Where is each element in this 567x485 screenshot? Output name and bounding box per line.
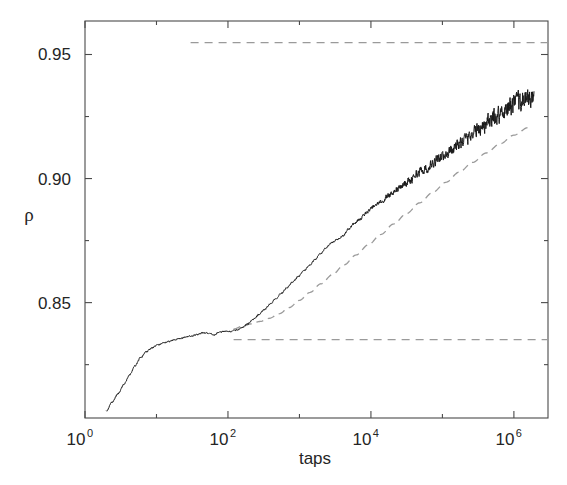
x-tick-label-3: 10 [495,430,514,449]
plot-frame [85,21,548,418]
x-tick-exponent-0: 0 [87,427,93,439]
axis-ticks [85,21,548,418]
asymptote-lines [191,43,548,340]
y-tick-label-0: 0.95 [38,45,71,64]
figure-container: 100102104106 0.950.900.85 taps ρ [0,0,567,485]
y-axis-label: ρ [24,204,33,225]
logarithmic-fit-curve [234,127,529,328]
y-tick-label-2: 0.85 [38,294,71,313]
y-tick-label-1: 0.90 [38,170,71,189]
x-tick-exponent-1: 2 [230,427,236,439]
x-tick-label-0: 10 [67,430,86,449]
x-axis-tick-labels: 100102104106 [67,427,522,449]
x-tick-exponent-2: 4 [373,427,379,439]
chart-canvas: 100102104106 0.950.900.85 taps ρ [0,0,567,485]
x-tick-label-1: 10 [210,430,229,449]
x-tick-label-2: 10 [352,430,371,449]
x-axis-label: taps [299,449,331,468]
density-vs-taps-curve [107,90,534,412]
x-tick-exponent-3: 6 [516,427,522,439]
y-axis-tick-labels: 0.950.900.85 [38,45,71,312]
